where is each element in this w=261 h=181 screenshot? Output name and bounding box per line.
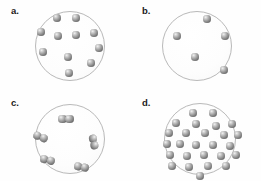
panel-label-c: c. [11,98,19,108]
particle-sphere [220,66,228,74]
particle-sphere [168,162,176,170]
panel-label-a: a. [11,6,19,16]
molecular-representation-figure: a.b.c.d. [0,0,261,181]
panel-label-d: d. [142,98,150,108]
particle-sphere [196,172,204,180]
particle-sphere [222,162,230,170]
panel-label-b: b. [142,6,150,16]
particle-sphere [228,120,236,128]
particle-sphere [81,163,90,172]
particle-sphere [232,151,240,159]
particle-sphere [65,115,73,123]
diatomic-molecule [58,115,73,123]
particle-sphere [234,131,242,139]
